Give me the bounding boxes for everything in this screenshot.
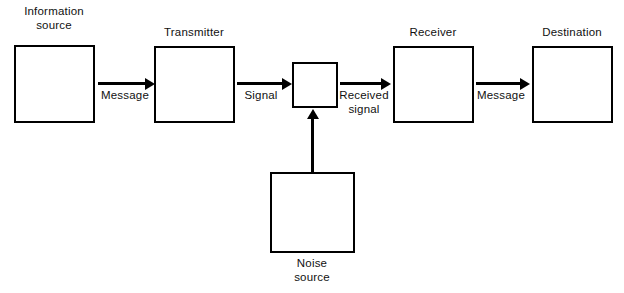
communication-model-diagram: Information source Message Transmitter S… [0, 0, 624, 293]
information-source-box[interactable] [14, 45, 95, 123]
source-to-transmitter-label: Message [96, 88, 154, 102]
receiver-to-destination-arrow [476, 82, 521, 85]
source-to-transmitter-arrow [98, 82, 146, 85]
channel-to-receiver-label: Received signal [334, 88, 394, 116]
receiver-box[interactable] [393, 46, 474, 123]
channel-to-receiver-arrow [340, 82, 382, 85]
channel-junction-box[interactable] [292, 62, 338, 108]
noise-source-box[interactable] [270, 172, 355, 253]
noise-to-channel-arrow [311, 118, 314, 174]
transmitter-to-channel-label: Signal [235, 88, 287, 102]
destination-box[interactable] [532, 46, 613, 123]
transmitter-to-channel-arrow [237, 82, 283, 85]
destination-label: Destination [522, 25, 622, 39]
information-source-label: Information source [4, 4, 104, 32]
transmitter-label: Transmitter [144, 25, 244, 39]
receiver-to-destination-label: Message [472, 88, 530, 102]
noise-source-label: Noise source [262, 256, 362, 284]
receiver-label: Receiver [383, 25, 483, 39]
transmitter-box[interactable] [154, 46, 235, 123]
